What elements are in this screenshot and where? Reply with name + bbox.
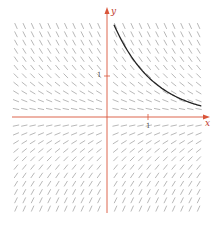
slope-segment [188, 165, 192, 170]
slope-segment [80, 65, 84, 70]
slope-segment [31, 189, 34, 195]
slope-segment [39, 157, 43, 162]
slope-segment [96, 100, 102, 102]
slope-segment [80, 148, 85, 152]
slope-segment [48, 23, 51, 29]
slope-segment [147, 173, 151, 178]
slope-segment [64, 40, 67, 46]
slope-segment [122, 31, 125, 37]
slope-segment [55, 133, 61, 135]
slope-segment [121, 133, 127, 135]
slope-segment [131, 181, 134, 186]
slope-segment [146, 100, 152, 102]
slope-segment [138, 165, 142, 170]
slope-segment [47, 165, 51, 170]
slope-segment [171, 157, 175, 162]
slope-segment [63, 141, 68, 144]
slope-segment [81, 57, 85, 62]
slope-segment [14, 65, 18, 70]
slope-segment [122, 65, 126, 70]
slope-segment [55, 165, 59, 170]
slope-segment [130, 65, 134, 70]
slope-segment [64, 206, 67, 212]
slope-segment [196, 91, 201, 94]
slope-segment [47, 65, 51, 70]
slope-segment [15, 197, 18, 203]
slope-segment [189, 31, 192, 37]
slope-segment [188, 82, 193, 86]
slope-segment [13, 100, 19, 102]
slope-segment [195, 108, 201, 109]
slope-segment [196, 82, 201, 86]
slope-segment [113, 148, 118, 152]
slope-segment [31, 40, 34, 46]
slope-segment [138, 100, 144, 102]
slope-segment [13, 133, 19, 135]
slope-segment [63, 108, 69, 109]
slope-segment [180, 48, 183, 53]
slope-segment [130, 165, 134, 170]
slope-segment [121, 82, 126, 86]
slope-segment [147, 197, 150, 203]
slope-segment [146, 108, 152, 109]
slope-segment [130, 148, 135, 152]
slope-segment [15, 23, 18, 29]
slope-segment [138, 74, 143, 79]
slope-segment [114, 40, 117, 46]
slope-segment [55, 74, 60, 79]
slope-segment [14, 74, 19, 79]
slope-segment [147, 57, 151, 62]
slope-segment [73, 206, 76, 212]
slope-segment [139, 57, 143, 62]
slope-segment [180, 189, 183, 195]
slope-segment [56, 189, 59, 195]
slope-segment [47, 173, 51, 178]
slope-segment [156, 23, 159, 29]
slope-segment [154, 133, 160, 135]
slope-segment [123, 23, 126, 29]
slope-segment [22, 82, 27, 86]
slope-segment [179, 125, 185, 126]
slope-segment [63, 133, 69, 135]
slope-segment [81, 40, 84, 46]
slope-segment [23, 189, 26, 195]
slope-segment [71, 100, 77, 102]
slope-segment [63, 91, 68, 94]
slope-segment [172, 197, 175, 203]
slope-segment [139, 31, 142, 37]
slope-segment [30, 82, 35, 86]
slope-segment [31, 206, 34, 212]
slope-segment [23, 31, 26, 37]
slope-segment [39, 65, 43, 70]
slope-segment [139, 48, 142, 53]
slope-segment [97, 157, 101, 162]
slope-segment [55, 65, 59, 70]
slope-segment [31, 173, 35, 178]
slope-segment [55, 100, 61, 102]
slope-segment [22, 65, 26, 70]
slope-segment [97, 189, 100, 195]
slope-segment [155, 173, 159, 178]
slope-segment [189, 206, 192, 212]
slope-segment [156, 206, 159, 212]
slope-segment [64, 48, 67, 53]
slope-segment [22, 165, 26, 170]
slope-segment [121, 148, 126, 152]
slope-segment [137, 125, 143, 126]
slope-segment [112, 125, 118, 126]
slope-segment [163, 157, 167, 162]
slope-segment [189, 197, 192, 203]
slope-segment [123, 206, 126, 212]
slope-segment [114, 57, 118, 62]
slope-segment [47, 82, 52, 86]
slope-segment [97, 148, 102, 152]
slope-segment [180, 181, 183, 186]
slope-segment [189, 48, 192, 53]
slope-segment [188, 57, 192, 62]
slope-segment [188, 173, 192, 178]
slope-segment [46, 108, 52, 109]
slope-segment [88, 157, 92, 162]
slope-segment [139, 206, 142, 212]
slope-segment [30, 133, 36, 135]
slope-segment [96, 91, 101, 94]
